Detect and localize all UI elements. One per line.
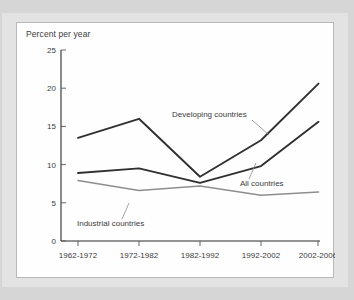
x-tick-label: 2002-2006 <box>299 251 335 260</box>
screenshot-root: Percent per year 25 20 <box>0 0 354 300</box>
line-chart: 25 20 15 10 5 0 1962-1972 <box>17 23 335 279</box>
x-tick-label: 1962-1972 <box>59 251 98 260</box>
x-tick-label: 1982-1992 <box>181 251 220 260</box>
leader-line-industrial-countries <box>122 203 129 219</box>
x-tick-labels: 1962-1972 1972-1982 1982-1992 1992-2002 … <box>59 251 335 260</box>
figure-outer-panel: Percent per year 25 20 <box>2 13 348 287</box>
chart-card: Percent per year 25 20 <box>16 22 334 278</box>
series-line-all-countries <box>78 122 319 183</box>
x-tick-label: 1972-1982 <box>120 251 159 260</box>
x-tick-marks <box>78 241 318 246</box>
annotation-industrial-countries: Industrial countries <box>77 219 144 228</box>
y-tick-label: 20 <box>47 84 56 93</box>
leader-line-developing-countries <box>252 120 269 135</box>
y-tick-label: 25 <box>47 46 56 55</box>
y-tick-label: 5 <box>52 199 57 208</box>
leader-line-all-countries <box>249 163 256 179</box>
series-line-developing-countries <box>78 84 319 177</box>
annotation-developing-countries: Developing countries <box>172 110 247 119</box>
y-tick-labels: 25 20 15 10 5 0 <box>47 46 56 246</box>
y-tick-label: 10 <box>47 161 56 170</box>
x-tick-label: 1992-2002 <box>242 251 281 260</box>
y-tick-label: 15 <box>47 122 56 131</box>
y-tick-marks <box>61 50 66 241</box>
annotation-all-countries: All countries <box>240 179 284 188</box>
y-tick-label: 0 <box>52 237 57 246</box>
